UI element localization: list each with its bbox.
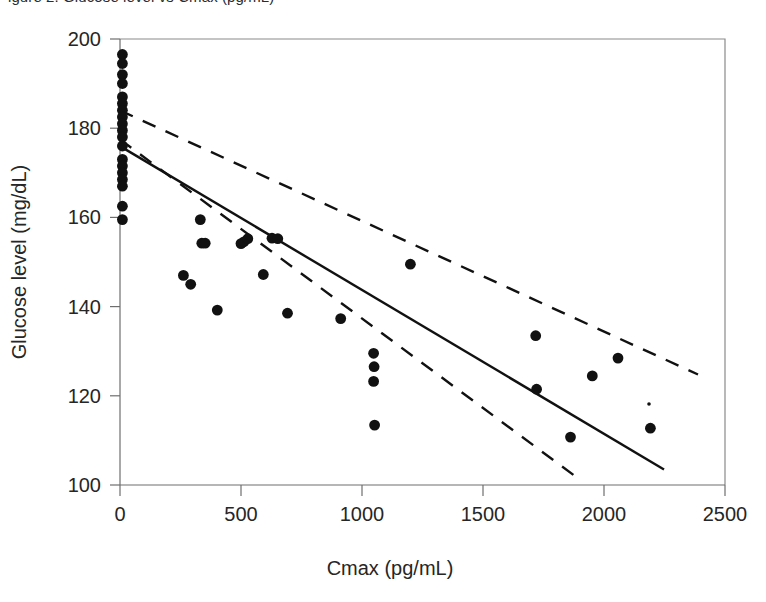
y-axis-ticklabels: 100 120 140 160 180 200 — [68, 28, 101, 496]
data-point — [613, 353, 624, 364]
data-point — [530, 330, 541, 341]
y-ticklabel-180: 180 — [68, 117, 101, 139]
data-point — [565, 432, 576, 443]
x-ticklabel-1000: 1000 — [340, 503, 385, 525]
data-point — [369, 361, 380, 372]
data-point — [117, 214, 128, 225]
data-point — [212, 305, 223, 316]
y-ticklabel-120: 120 — [68, 385, 101, 407]
y-axis-title: Glucose level (mg/dL) — [8, 165, 30, 360]
y-ticklabel-160: 160 — [68, 206, 101, 228]
scatter-plot: 100 120 140 160 180 200 0 500 1000 1500 … — [0, 0, 766, 602]
x-axis-title: Cmax (pg/mL) — [327, 557, 454, 579]
data-point — [117, 181, 128, 192]
data-points — [117, 49, 656, 442]
confidence-bands — [120, 110, 698, 476]
figure-container: igure 2. Glucose level vs Cmax (pg/mL) 1… — [0, 0, 766, 602]
data-point — [369, 420, 380, 431]
data-point — [117, 58, 128, 69]
regression-line — [120, 146, 664, 469]
data-point — [200, 238, 211, 249]
frame-top-right — [120, 39, 725, 485]
data-point — [647, 402, 651, 406]
x-axis-ticks — [120, 485, 725, 496]
plot-frame — [120, 39, 725, 485]
x-ticklabel-1500: 1500 — [461, 503, 506, 525]
data-point — [335, 313, 346, 324]
data-point — [368, 376, 379, 387]
data-point — [587, 371, 598, 382]
data-point — [405, 259, 416, 270]
y-ticklabel-100: 100 — [68, 474, 101, 496]
x-ticklabel-0: 0 — [114, 503, 125, 525]
data-point — [258, 269, 269, 280]
x-ticklabel-2000: 2000 — [582, 503, 627, 525]
data-point — [242, 233, 253, 244]
data-point — [195, 214, 206, 225]
data-point — [178, 270, 189, 281]
data-point — [531, 384, 542, 395]
data-point — [282, 308, 293, 319]
data-point — [185, 279, 196, 290]
data-point — [645, 423, 656, 434]
data-point — [117, 141, 128, 152]
lower-confidence-band — [120, 139, 575, 476]
x-axis-ticklabels: 0 500 1000 1500 2000 2500 — [114, 503, 747, 525]
data-point — [272, 233, 283, 244]
data-point — [117, 201, 128, 212]
x-ticklabel-2500: 2500 — [703, 503, 748, 525]
data-point — [368, 348, 379, 359]
data-point — [117, 78, 128, 89]
y-ticklabel-200: 200 — [68, 28, 101, 50]
y-ticklabel-140: 140 — [68, 296, 101, 318]
x-ticklabel-500: 500 — [224, 503, 257, 525]
